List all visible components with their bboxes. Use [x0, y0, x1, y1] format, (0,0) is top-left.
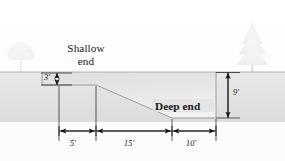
deep-depth-label: 9' — [233, 89, 239, 98]
diagram-canvas — [0, 0, 285, 161]
shallow-end-label: Shallow end — [58, 42, 114, 68]
segment-slope-label: 15' — [124, 140, 134, 149]
deep-end-label: Deep end — [155, 100, 200, 112]
shallow-depth-label: 3' — [44, 74, 50, 83]
pool-cross-section-figure: Shallow end Deep end 3' 9' 5' 15' 10' — [0, 0, 285, 161]
segment-shallow-label: 5' — [70, 140, 76, 149]
segment-deep-label: 10' — [186, 140, 196, 149]
